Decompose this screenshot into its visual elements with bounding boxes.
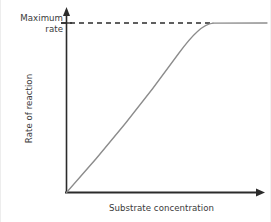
maximum-rate-label-line2: rate	[1, 24, 63, 35]
x-axis-label: Substrate concentration	[1, 203, 271, 214]
y-axis-arrowhead	[63, 7, 70, 16]
maximum-rate-label-line1: Maximum	[20, 13, 63, 23]
y-axis-label: Rate of reaction	[24, 54, 35, 164]
enzyme-kinetics-chart: Maximum rate Substrate concentration Rat…	[0, 0, 271, 222]
x-axis-arrowhead	[256, 189, 265, 197]
maximum-rate-label: Maximum rate	[1, 13, 63, 35]
reaction-rate-curve	[67, 23, 214, 192]
